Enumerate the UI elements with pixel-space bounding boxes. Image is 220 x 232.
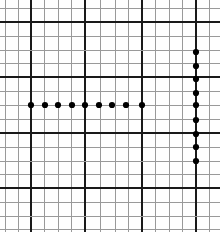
grid-layer [0, 0, 220, 232]
graph-paper-figure [0, 0, 220, 232]
